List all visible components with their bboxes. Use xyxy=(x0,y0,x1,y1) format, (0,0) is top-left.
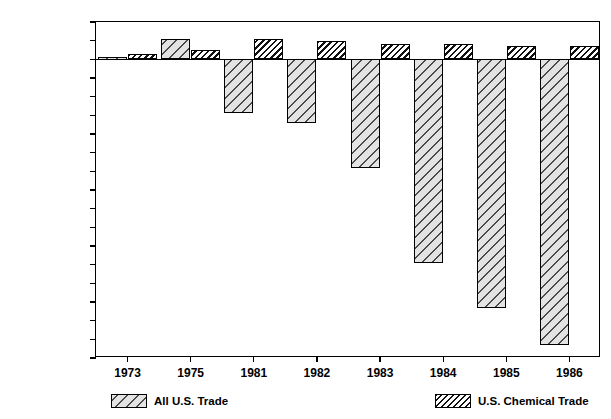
x-axis-tick xyxy=(127,356,128,362)
y-axis-tick xyxy=(90,189,96,190)
chart-figure: Balance of Trade (Billions of Dollars) 2… xyxy=(0,0,611,419)
y-axis-tick xyxy=(90,40,96,41)
legend-label: U.S. Chemical Trade xyxy=(478,395,589,407)
bar-1975-all-us-trade xyxy=(161,39,190,60)
x-axis-tick xyxy=(253,356,254,362)
y-axis-tick xyxy=(90,96,96,97)
x-axis-tick-label: 1985 xyxy=(493,366,520,380)
bar-1982-us-chemical-trade xyxy=(317,41,346,60)
bar-1984-us-chemical-trade xyxy=(444,44,473,59)
x-axis-tick xyxy=(443,356,444,362)
x-axis-tick-label: 1983 xyxy=(367,366,394,380)
x-axis-tick-label: 1984 xyxy=(430,366,457,380)
y-axis-title: Balance of Trade (Billions of Dollars) xyxy=(0,0,46,60)
y-axis-tick xyxy=(90,339,96,340)
y-axis-tick xyxy=(90,21,96,22)
bar-1983-us-chemical-trade xyxy=(381,44,410,59)
bar-1975-us-chemical-trade xyxy=(191,50,220,59)
plot-area: 20100−10−20−30−40−50−60−70−80−90−100−110… xyxy=(95,21,600,357)
legend-item-all-us-trade: All U.S. Trade xyxy=(111,394,228,408)
x-axis-tick xyxy=(316,356,317,362)
y-axis-tick xyxy=(90,264,96,265)
legend-swatch-us-chemical-trade xyxy=(435,394,471,408)
bar-1981-us-chemical-trade xyxy=(254,39,283,60)
x-axis-tick xyxy=(506,356,507,362)
bar-1986-all-us-trade xyxy=(540,59,569,345)
y-axis-tick xyxy=(90,59,96,60)
x-axis-tick xyxy=(569,356,570,362)
y-axis-tick xyxy=(90,171,96,172)
bar-1984-all-us-trade xyxy=(414,59,443,262)
bar-1983-all-us-trade xyxy=(351,59,380,167)
y-axis-tick xyxy=(90,133,96,134)
y-axis-tick xyxy=(90,77,96,78)
legend-item-us-chemical-trade: U.S. Chemical Trade xyxy=(435,394,589,408)
bar-1973-all-us-trade xyxy=(98,57,127,60)
x-axis-tick-label: 1982 xyxy=(304,366,331,380)
x-axis-tick xyxy=(190,356,191,362)
bar-1973-us-chemical-trade xyxy=(128,54,157,60)
x-axis-tick-label: 1975 xyxy=(177,366,204,380)
y-axis-tick xyxy=(90,283,96,284)
y-axis-tick xyxy=(90,227,96,228)
bar-1981-all-us-trade xyxy=(224,59,253,113)
y-axis-tick xyxy=(90,320,96,321)
x-axis-tick-label: 1981 xyxy=(240,366,267,380)
y-axis-tick xyxy=(90,301,96,302)
bar-1986-us-chemical-trade xyxy=(570,46,599,59)
chart-legend: All U.S. TradeU.S. Chemical Trade xyxy=(95,392,600,414)
x-axis-tick-label: 1986 xyxy=(556,366,583,380)
y-axis-tick xyxy=(90,245,96,246)
y-axis-tick xyxy=(90,152,96,153)
bar-1982-all-us-trade xyxy=(287,59,316,122)
y-axis-tick xyxy=(90,115,96,116)
legend-swatch-all-us-trade xyxy=(111,394,147,408)
y-axis-tick xyxy=(90,357,96,358)
legend-label: All U.S. Trade xyxy=(154,395,228,407)
bar-1985-us-chemical-trade xyxy=(507,46,536,59)
x-axis-tick-label: 1973 xyxy=(114,366,141,380)
y-axis-tick xyxy=(90,208,96,209)
bar-1985-all-us-trade xyxy=(477,59,506,307)
x-axis-tick xyxy=(379,356,380,362)
